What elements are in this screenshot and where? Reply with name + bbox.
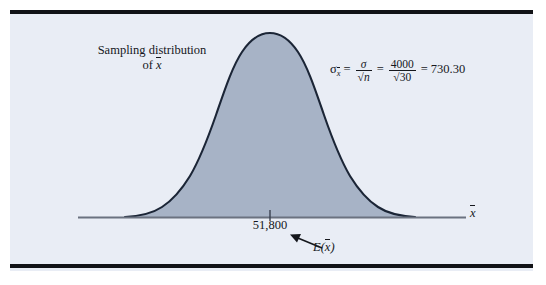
x-variable: x bbox=[325, 240, 331, 254]
4000-over-sqrt-30: 4000√30 bbox=[389, 58, 416, 83]
sigma-symbol: σ bbox=[330, 62, 337, 76]
subscript-x: x bbox=[337, 68, 341, 78]
x-bar-glyph: x bbox=[470, 206, 476, 221]
overbar bbox=[470, 205, 475, 206]
sampling-distribution-label: Sampling distribution of x bbox=[62, 43, 242, 73]
standard-error-formula: σx=σ√n=4000√30=730.30 bbox=[330, 58, 465, 83]
overbar bbox=[325, 239, 330, 240]
formula-denominator-sqrt-n: √n bbox=[356, 70, 372, 83]
x-bar-glyph: x bbox=[156, 58, 162, 73]
expected-value-close-paren: ) bbox=[330, 240, 334, 254]
sampling-distribution-line1: Sampling distribution bbox=[98, 43, 207, 57]
sigma-subscript-x-bar: x bbox=[337, 68, 341, 78]
sampling-distribution-line2-prefix: of bbox=[142, 58, 156, 72]
expected-value-open-paren: E( bbox=[313, 240, 325, 254]
x-variable: x bbox=[470, 206, 476, 220]
overbar bbox=[337, 67, 340, 68]
x-variable: x bbox=[156, 58, 162, 72]
x-bar-glyph: x bbox=[325, 240, 331, 255]
sample-size-value: 30 bbox=[400, 71, 412, 83]
mean-value-label: 51,800 bbox=[222, 218, 318, 233]
figure-root: Sampling distribution of x σx=σ√n=4000√3… bbox=[0, 0, 546, 285]
standard-error-result: 730.30 bbox=[431, 62, 465, 76]
formula-numerator-sigma: σ bbox=[356, 58, 372, 70]
equals-sign-3: = bbox=[421, 62, 428, 76]
sample-size-variable: n bbox=[364, 71, 370, 83]
expected-value-label: E(x) bbox=[313, 240, 335, 255]
equals-sign-2: = bbox=[377, 62, 384, 76]
x-axis-label: x bbox=[470, 206, 476, 221]
formula-numerator-4000: 4000 bbox=[389, 58, 416, 70]
overbar bbox=[156, 57, 161, 58]
sigma-over-sqrt-n: σ√n bbox=[356, 58, 372, 83]
formula-denominator-sqrt-30: √30 bbox=[389, 70, 416, 83]
equals-sign-1: = bbox=[344, 62, 351, 76]
